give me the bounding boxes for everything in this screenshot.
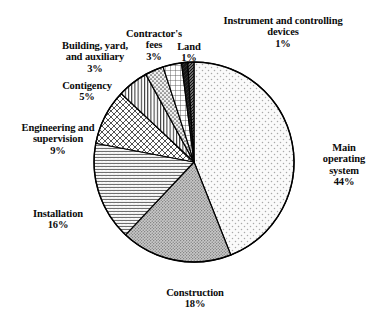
slice-label-instrument-and-controlling-devices: Instrument and controlling devices 1%: [218, 3, 348, 61]
slice-label-pct: 1%: [168, 52, 210, 64]
slice-label-pct: 16%: [12, 219, 104, 231]
slice-label-pct: 5%: [40, 91, 134, 103]
slice-label-text: Instrument and controlling devices: [223, 15, 342, 38]
slice-label-text: Engineering and supervision: [22, 122, 95, 145]
slice-label-text: Main operating system: [323, 142, 365, 176]
slice-label-text: Building, yard, and auxiliary: [62, 40, 128, 63]
slice-label-pct: 9%: [6, 145, 110, 157]
slice-label-text: Installation: [33, 208, 83, 219]
slice-label-main-operating-system: Main operating system 44%: [307, 130, 381, 199]
slice-label-pct: 1%: [218, 38, 348, 50]
slice-label-text: Construction: [166, 287, 224, 298]
slice-label-pct: 44%: [307, 176, 381, 188]
slice-label-engineering-and-supervision: Engineering and supervision 9%: [6, 110, 110, 168]
slice-label-construction: Construction 18%: [140, 275, 250, 309]
slice-label-text: Land: [177, 41, 201, 52]
slice-label-land: Land 1%: [168, 29, 210, 75]
slice-label-pct: 18%: [140, 298, 250, 309]
pie-chart: Instrument and controlling devices 1% Ma…: [0, 0, 386, 309]
slice-label-installation: Installation 16%: [12, 196, 104, 242]
